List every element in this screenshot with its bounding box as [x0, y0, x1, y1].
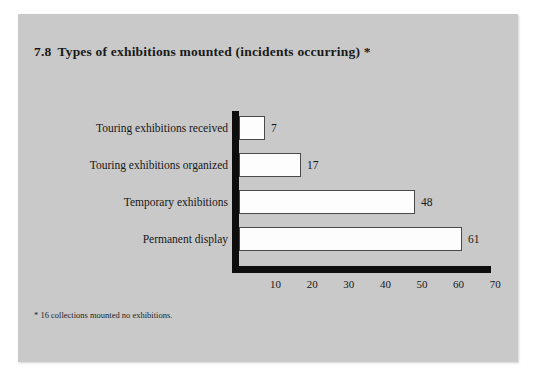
bar-row: Temporary exhibitions48 [18, 187, 518, 217]
x-tick-label: 50 [410, 278, 434, 290]
bar-value-label: 61 [468, 224, 480, 254]
bar-row: Touring exhibitions received7 [18, 113, 518, 143]
category-label: Touring exhibitions received [96, 113, 228, 143]
bar [239, 190, 415, 214]
bar [239, 153, 301, 177]
bar [239, 116, 265, 140]
bar-value-label: 48 [421, 187, 433, 217]
x-tick-label: 30 [337, 278, 361, 290]
category-label: Temporary exhibitions [124, 187, 228, 217]
x-axis [232, 266, 491, 273]
bar [239, 227, 462, 251]
bar-value-label: 7 [271, 113, 277, 143]
category-label: Touring exhibitions organized [90, 150, 228, 180]
x-tick-label: 40 [373, 278, 397, 290]
x-tick-label: 10 [264, 278, 288, 290]
bar-value-label: 17 [307, 150, 319, 180]
footnote: * 16 collections mounted no exhibitions. [34, 310, 172, 320]
x-tick-label: 60 [447, 278, 471, 290]
x-tick-label: 20 [300, 278, 324, 290]
bar-row: Touring exhibitions organized17 [18, 150, 518, 180]
bar-row: Permanent display61 [18, 224, 518, 254]
page-panel: 7.8Types of exhibitions mounted (inciden… [18, 14, 518, 362]
x-tick-label: 70 [483, 278, 507, 290]
category-label: Permanent display [143, 224, 228, 254]
